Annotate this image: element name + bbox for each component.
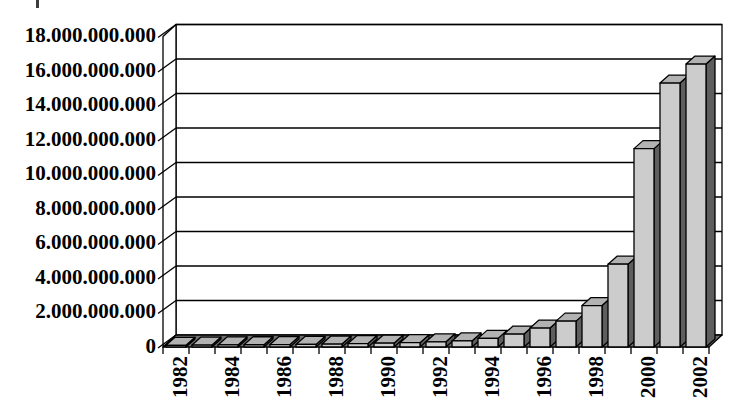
x-tick-label-2002: 2002 [688,356,712,398]
y-tick-label-14.000.000.000: 14.000.000.000 [25,92,156,116]
y-tick-label-4.000.000.000: 4.000.000.000 [35,265,156,289]
bar-1986 [270,345,290,347]
bar-1984 [218,345,238,347]
y-tick-label-12.000.000.000: 12.000.000.000 [25,127,156,151]
y-tick-label-0: 0 [146,334,157,358]
x-tick-label-1986: 1986 [272,356,296,398]
bar-1998 [582,306,602,347]
x-tick-label-2000: 2000 [636,356,660,398]
bar-side-2002 [706,56,715,347]
bar-1991 [400,343,420,347]
y-tick-label-6.000.000.000: 6.000.000.000 [35,230,156,254]
x-tick-label-1994: 1994 [480,356,504,399]
bar-1995 [504,334,524,347]
bar-1988 [322,344,342,347]
y-tick-label-18.000.000.000: 18.000.000.000 [25,23,156,47]
x-tick-label-1996: 1996 [532,356,556,398]
bar-2001 [660,83,680,347]
x-tick-label-1992: 1992 [428,356,452,398]
bar-1987 [296,344,316,347]
x-tick-label-1990: 1990 [376,356,400,398]
bar-2002 [686,64,706,347]
bar-1992 [426,342,446,347]
y-tick-label-10.000.000.000: 10.000.000.000 [25,161,156,185]
x-tick-label-1988: 1988 [324,356,348,398]
x-tick-label-1984: 1984 [220,356,244,399]
scan-artifact [36,0,39,8]
bar-1999 [608,264,628,347]
bar-1982 [166,345,186,347]
bar-1996 [530,328,550,347]
bar-chart-svg: 02.000.000.0004.000.000.0006.000.000.000… [0,0,738,414]
bar-1983 [192,345,212,347]
bar-1993 [452,341,472,347]
bar-1985 [244,345,264,347]
bar-1994 [478,338,498,347]
bar-1997 [556,321,576,347]
bar-1990 [374,343,394,347]
bar-2000 [634,149,654,347]
bar-1989 [348,344,368,347]
y-tick-label-2.000.000.000: 2.000.000.000 [35,299,156,323]
plot-left-wall [163,25,176,348]
y-tick-label-8.000.000.000: 8.000.000.000 [35,196,156,220]
x-tick-label-1998: 1998 [584,356,608,398]
y-tick-label-16.000.000.000: 16.000.000.000 [25,58,156,82]
chart-figure: 02.000.000.0004.000.000.0006.000.000.000… [0,0,738,414]
x-tick-label-1982: 1982 [168,356,192,398]
